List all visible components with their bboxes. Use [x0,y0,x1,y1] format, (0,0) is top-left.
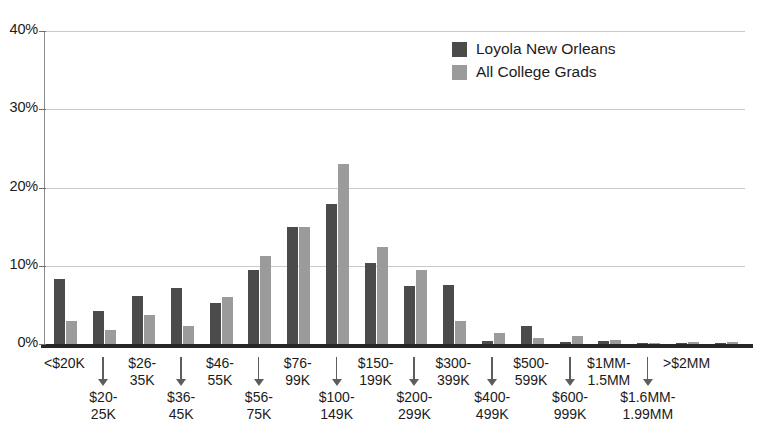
x-axis-label-line: 199K [331,372,421,389]
x-axis-label-line: $300- [408,355,498,372]
bar [404,286,415,344]
x-axis-label-line: 99K [253,372,343,389]
bar [326,204,337,344]
bar [260,256,271,344]
y-axis-tick [39,31,46,32]
plot-area [45,31,745,344]
x-axis-label-line: $76- [253,355,343,372]
bar-group [248,31,271,344]
bar-group [287,31,310,344]
y-axis-tick [39,266,46,267]
x-axis-label-line: 999K [525,406,615,423]
x-axis-label: $36-45K [136,389,226,423]
bar [299,227,310,344]
legend-item-label: All College Grads [476,63,597,81]
bar [287,227,298,344]
x-axis-label-line: $36- [136,389,226,406]
x-axis-label-line: 55K [175,372,265,389]
bar-group [93,31,116,344]
bar-group [676,31,699,344]
x-axis-label-line: 1.99MM [603,406,693,423]
y-axis-tick-label: 0% [2,334,38,350]
x-axis-label-line: $150- [331,355,421,372]
bar [365,263,376,344]
bar [416,270,427,344]
x-axis-label: <$20K [19,355,109,372]
arrow-head [643,379,653,386]
bar [248,270,259,344]
x-axis-label-line: $1MM- [564,355,654,372]
bar [338,164,349,344]
x-axis-label: $500-599K [486,355,576,389]
bar [54,279,65,344]
x-axis-label: $56-75K [214,389,304,423]
chart-legend: Loyola New Orleans All College Grads [452,40,616,81]
income-distribution-bar-chart: 0%10%20%30%40% Loyola New Orleans All Co… [0,0,761,437]
y-axis-tick [39,188,46,189]
x-axis-label-line: $500- [486,355,576,372]
bar-group [326,31,349,344]
x-axis-label-line: $200- [369,389,459,406]
x-axis-label-line: 25K [58,406,148,423]
x-axis-label-line: 399K [408,372,498,389]
x-axis-label: $1MM-1.5MM [564,355,654,389]
x-axis-label-line: 299K [369,406,459,423]
x-axis-label-line: $46- [175,355,265,372]
y-axis-tick [39,344,46,345]
y-axis-tick-label: 30% [2,99,38,115]
bar-group [132,31,155,344]
x-axis-line [41,344,753,348]
x-axis-label: $100-149K [292,389,382,423]
bar [494,333,505,344]
x-axis-label: $400-499K [447,389,537,423]
legend-item-label: Loyola New Orleans [476,40,616,58]
x-axis-label: $46-55K [175,355,265,389]
y-axis-tick [39,109,46,110]
y-axis-tick-label: 20% [2,178,38,194]
x-axis-label-line: $100- [292,389,382,406]
bar [183,326,194,344]
x-axis-label: $300-399K [408,355,498,389]
x-axis-label: $26-35K [97,355,187,389]
x-axis-label-line: <$20K [19,355,109,372]
x-axis-label-line: 35K [97,372,187,389]
x-axis-label-line: $600- [525,389,615,406]
bar-group [715,31,738,344]
bar-group [365,31,388,344]
bar [93,311,104,344]
legend-swatch-icon [452,42,467,57]
bar [66,321,77,344]
bar [132,296,143,345]
x-axis-label: $150-199K [331,355,421,389]
x-axis-label-line: $1.6MM- [603,389,693,406]
x-axis-label: $600-999K [525,389,615,423]
x-axis-label: $20-25K [58,389,148,423]
x-axis-label: $76-99K [253,355,343,389]
x-axis-label-line: 45K [136,406,226,423]
legend-item-loyola-new-orleans: Loyola New Orleans [452,40,616,58]
x-axis-label-line: 75K [214,406,304,423]
x-axis-label-line: $20- [58,389,148,406]
bar [210,303,221,344]
x-axis-label: >$2MM [642,355,732,372]
bar [521,326,532,344]
bar [105,330,116,344]
x-axis-label-line: 1.5MM [564,372,654,389]
bar [443,285,454,344]
legend-item-all-college-grads: All College Grads [452,63,616,81]
x-axis-label-line: $56- [214,389,304,406]
x-axis-label: $200-299K [369,389,459,423]
x-axis-label-line: $26- [97,355,187,372]
y-axis-tick-label: 40% [2,21,38,37]
bar-group [54,31,77,344]
x-axis-label-line: >$2MM [642,355,732,372]
x-axis-label-line: 499K [447,406,537,423]
bar [222,297,233,344]
y-axis-tick-label: 10% [2,256,38,272]
bar [455,321,466,344]
bar [144,315,155,344]
bar [572,336,583,344]
legend-swatch-icon [452,65,467,80]
x-axis-label-line: 599K [486,372,576,389]
bar-group [637,31,660,344]
